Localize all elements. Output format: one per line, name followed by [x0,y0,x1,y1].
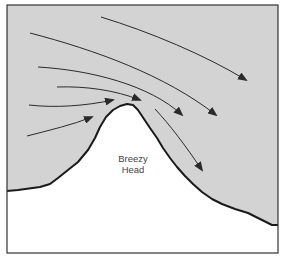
airflow-diagram [0,0,282,256]
label-line-2: Head [108,164,158,175]
headland-label: Breezy Head [108,153,158,175]
label-line-1: Breezy [108,153,158,164]
